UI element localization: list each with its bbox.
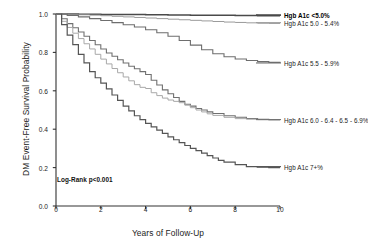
x-tick-label: 0 [43,206,69,213]
x-tick-label: 6 [177,206,203,213]
x-tick-label: 8 [222,206,248,213]
x-tick-label: 2 [88,206,114,213]
series-label-a1c-55-59: Hgb A1c 5.5 - 5.9% [284,59,339,66]
series-label-a1c-7plus: Hgb A1c 7+% [284,163,323,170]
x-tick-label: 4 [133,206,159,213]
x-axis-title: Years of Follow-Up [56,228,280,238]
series-label-a1c-60-69: Hgb A1c 6.0 - 6.4 - 6.5 - 6.9% [284,116,368,123]
series-label-a1c-50-54: Hgb A1c 5.0 - 5.4% [284,19,339,26]
x-axis-tick-labels: 0246810 [0,206,361,218]
series-label-a1c-under5: Hgb A1c <5.0% [284,11,330,18]
logrank-annotation: Log-Rank p<0.001 [57,176,113,183]
x-tick-label: 10 [267,206,293,213]
